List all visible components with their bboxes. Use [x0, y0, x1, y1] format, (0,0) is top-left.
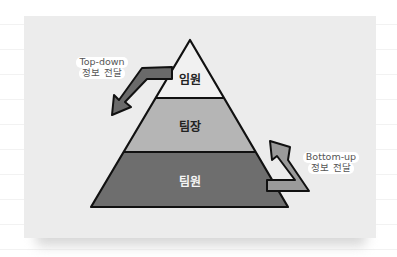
top-down-subtitle: 정보 전달: [79, 68, 124, 79]
bottom-up-label: Bottom-up 정보 전달: [301, 152, 361, 174]
top-down-label: Top-down 정보 전달: [72, 57, 132, 79]
tier-top-label: 임원: [170, 70, 210, 87]
tier-bottom-label: 팀원: [170, 172, 210, 189]
bottom-up-subtitle: 정보 전달: [308, 163, 353, 174]
tier-middle-label: 팀장: [170, 117, 210, 134]
